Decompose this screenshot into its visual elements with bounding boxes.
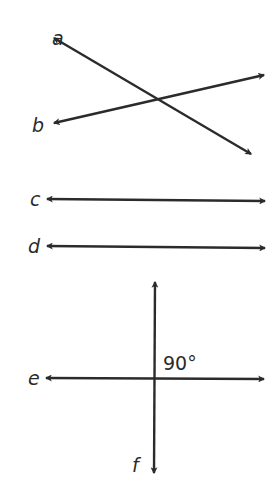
angle-label: 90° xyxy=(163,352,197,374)
line-label-d: d xyxy=(28,235,41,257)
line-a xyxy=(54,38,251,154)
line-label-f: f xyxy=(132,454,142,476)
line-label-b: b xyxy=(32,114,44,136)
line-c xyxy=(47,199,265,201)
line-b xyxy=(54,75,264,123)
line-label-c: c xyxy=(30,188,41,210)
line-label-a: a xyxy=(52,27,64,49)
geometry-diagram: abcdef90° xyxy=(0,0,273,501)
line-f xyxy=(154,282,155,473)
line-d xyxy=(47,246,265,248)
line-label-e: e xyxy=(28,367,40,389)
